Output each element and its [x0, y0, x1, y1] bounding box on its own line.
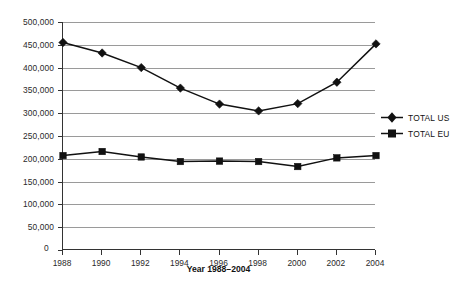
diamond-marker-icon	[381, 112, 403, 123]
legend-label-total-eu: TOTAL EU	[408, 129, 449, 139]
y-axis-tick-label: 300,000	[23, 108, 54, 118]
y-axis-tick-label: 50,000	[28, 222, 54, 232]
chart-container: 500,000450,000400,000350,000300,000250,0…	[0, 0, 450, 290]
data-point-marker	[137, 63, 145, 71]
y-axis-tick-label: 200,000	[23, 154, 54, 164]
x-axis-tick	[101, 250, 102, 255]
y-axis-zero-label: 0	[44, 243, 49, 253]
data-point-marker	[216, 158, 222, 164]
legend-item-total-eu: TOTAL EU	[381, 128, 449, 139]
data-point-marker	[294, 99, 302, 107]
data-series-layer	[63, 22, 376, 250]
y-axis-tick-label: 100,000	[23, 199, 54, 209]
data-point-marker	[60, 152, 66, 158]
x-axis-tick	[219, 250, 220, 255]
y-axis-tick-label: 350,000	[23, 85, 54, 95]
x-axis-tick	[179, 250, 180, 255]
y-axis-tick-label: 400,000	[23, 63, 54, 73]
data-point-marker	[295, 163, 301, 169]
y-axis-tick-label: 250,000	[23, 131, 54, 141]
square-marker-icon	[381, 128, 403, 139]
y-axis-tick-label: 500,000	[23, 17, 54, 27]
data-point-marker	[177, 158, 183, 164]
series-total-us	[59, 38, 380, 115]
data-point-marker	[98, 49, 106, 57]
data-point-marker	[334, 155, 340, 161]
data-point-marker	[255, 158, 261, 164]
data-point-marker	[138, 154, 144, 160]
series-total-eu	[60, 148, 379, 169]
x-axis-tick	[297, 250, 298, 255]
x-axis-tick	[140, 250, 141, 255]
x-axis-tick	[336, 250, 337, 255]
data-point-marker	[215, 100, 223, 108]
data-point-marker	[99, 148, 105, 154]
data-point-marker	[254, 107, 262, 115]
plot-area: 500,000450,000400,000350,000300,000250,0…	[62, 22, 375, 250]
legend-label-total-us: TOTAL US	[408, 113, 449, 123]
x-axis-tick	[375, 250, 376, 255]
x-axis-title: Year 1988–2004	[62, 264, 375, 274]
x-axis-tick	[62, 250, 63, 255]
chart-legend: TOTAL US TOTAL EU	[381, 112, 449, 139]
x-axis-tick	[258, 250, 259, 255]
data-point-marker	[176, 84, 184, 92]
legend-item-total-us: TOTAL US	[381, 112, 449, 123]
data-point-marker	[373, 152, 379, 158]
y-axis-tick-label: 450,000	[23, 40, 54, 50]
y-axis-tick-label: 150,000	[23, 177, 54, 187]
